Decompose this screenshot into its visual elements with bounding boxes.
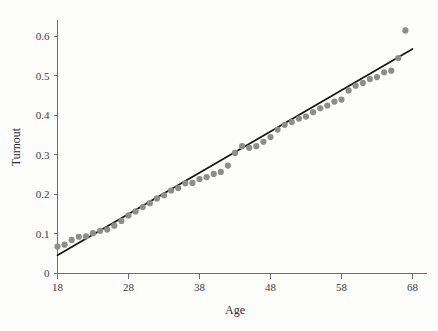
data-point: [388, 68, 394, 74]
data-point: [303, 113, 309, 119]
data-point: [133, 208, 139, 214]
data-point: [374, 74, 380, 80]
data-point: [267, 134, 273, 140]
data-point: [140, 204, 146, 210]
data-point: [62, 242, 68, 248]
data-point: [125, 212, 131, 218]
data-point: [118, 218, 124, 224]
data-point: [360, 80, 366, 86]
data-point: [239, 143, 245, 149]
data-point: [218, 169, 224, 175]
data-point: [381, 69, 387, 75]
y-tick-label: 0.4: [36, 109, 50, 121]
data-point: [395, 55, 401, 61]
y-tick-label: 0.6: [36, 30, 50, 42]
data-point: [54, 244, 60, 250]
data-point: [204, 174, 210, 180]
y-tick-label: 0.2: [36, 188, 50, 200]
x-tick-label: 18: [52, 281, 64, 293]
data-point: [168, 187, 174, 193]
chart-canvas: 00.10.20.30.40.50.6 182838485868 Age Tur…: [0, 0, 438, 331]
x-tick-label: 48: [265, 281, 277, 293]
data-point: [317, 105, 323, 111]
data-point: [211, 171, 217, 177]
data-point: [346, 87, 352, 93]
x-tick-label: 68: [407, 281, 419, 293]
data-point: [282, 122, 288, 128]
data-point: [182, 180, 188, 186]
data-point: [338, 96, 344, 102]
data-point: [402, 27, 408, 33]
data-point: [331, 98, 337, 104]
data-point: [90, 230, 96, 236]
turnout-by-age-scatter-figure: 00.10.20.30.40.50.6 182838485868 Age Tur…: [0, 0, 438, 331]
data-points-group: [54, 27, 408, 249]
y-axis-title: Turnout: [9, 127, 23, 166]
data-point: [296, 115, 302, 121]
data-point: [260, 139, 266, 145]
data-point: [310, 109, 316, 115]
x-tick-label: 38: [194, 281, 206, 293]
data-point: [97, 228, 103, 234]
data-point: [324, 102, 330, 108]
y-tick-label: 0: [44, 267, 50, 279]
axes-group: 00.10.20.30.40.50.6 182838485868: [36, 20, 427, 293]
data-point: [253, 143, 259, 149]
data-point: [175, 185, 181, 191]
data-point: [69, 237, 75, 243]
data-point: [246, 145, 252, 151]
data-point: [232, 150, 238, 156]
data-point: [154, 195, 160, 201]
data-point: [76, 234, 82, 240]
data-point: [189, 180, 195, 186]
data-point: [196, 176, 202, 182]
data-point: [83, 233, 89, 239]
x-axis-ticks: 182838485868: [52, 274, 419, 293]
y-tick-label: 0.5: [36, 70, 50, 82]
x-tick-label: 28: [123, 281, 135, 293]
data-point: [104, 227, 110, 233]
x-axis-title: Age: [225, 303, 245, 317]
x-tick-label: 58: [336, 281, 348, 293]
data-point: [147, 200, 153, 206]
data-point: [289, 119, 295, 125]
y-tick-label: 0.3: [36, 149, 50, 161]
data-point: [111, 223, 117, 229]
data-point: [161, 192, 167, 198]
y-axis-ticks: 00.10.20.30.40.50.6: [36, 30, 58, 279]
data-point: [225, 162, 231, 168]
data-point: [353, 83, 359, 89]
data-point: [367, 76, 373, 82]
y-tick-label: 0.1: [36, 228, 50, 240]
data-point: [275, 127, 281, 133]
